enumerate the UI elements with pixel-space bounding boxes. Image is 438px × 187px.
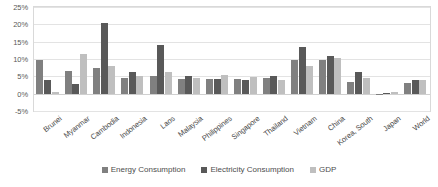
bar-0[interactable]: [376, 94, 383, 95]
bar-2[interactable]: [165, 72, 172, 94]
bar-group: [289, 7, 317, 111]
bar-group: [34, 7, 62, 111]
bar-2[interactable]: [136, 76, 143, 94]
bar-1[interactable]: [72, 84, 79, 94]
bar-0[interactable]: [319, 60, 326, 94]
chart-legend: Energy ConsumptionElectricity Consumptio…: [0, 165, 438, 174]
bar-2[interactable]: [391, 92, 398, 93]
bar-1[interactable]: [327, 56, 334, 94]
bar-2[interactable]: [108, 66, 115, 94]
x-axis: BruneiMyanmarCambodiaIndonesiaLaosMalays…: [34, 112, 430, 162]
bar-1[interactable]: [157, 45, 164, 93]
bar-0[interactable]: [347, 82, 354, 93]
bars-layer: [34, 7, 430, 111]
bar-0[interactable]: [206, 79, 213, 94]
bar-2[interactable]: [80, 54, 87, 94]
bar-group: [402, 7, 430, 111]
bar-0[interactable]: [234, 79, 241, 94]
legend-swatch-icon: [201, 167, 207, 173]
bar-group: [345, 7, 373, 111]
bar-1[interactable]: [355, 72, 362, 94]
bar-group: [204, 7, 232, 111]
bar-0[interactable]: [93, 68, 100, 94]
legend-swatch-icon: [102, 167, 108, 173]
bar-2[interactable]: [419, 80, 426, 94]
bar-1[interactable]: [129, 72, 136, 93]
bar-0[interactable]: [404, 83, 411, 94]
y-axis-tick-label: 10%: [13, 55, 28, 64]
bar-0[interactable]: [263, 78, 270, 94]
bar-1[interactable]: [383, 93, 390, 94]
bar-group: [119, 7, 147, 111]
bar-2[interactable]: [52, 92, 59, 94]
bar-0[interactable]: [36, 60, 43, 93]
bar-1[interactable]: [44, 80, 51, 94]
bar-2[interactable]: [278, 80, 285, 94]
bar-1[interactable]: [101, 23, 108, 94]
bar-group: [175, 7, 203, 111]
y-axis-tick-label: 25%: [13, 3, 28, 12]
bar-0[interactable]: [178, 79, 185, 94]
bar-2[interactable]: [193, 78, 200, 93]
bar-0[interactable]: [150, 76, 157, 93]
bar-2[interactable]: [334, 58, 341, 94]
y-axis-tick-label: 5%: [17, 72, 28, 81]
y-axis-tick-label: 15%: [13, 37, 28, 46]
bar-2[interactable]: [306, 66, 313, 93]
bar-0[interactable]: [121, 78, 128, 93]
bar-1[interactable]: [185, 76, 192, 94]
y-axis: 25%20%15%10%5%0%-5%: [0, 6, 31, 112]
bar-group: [147, 7, 175, 111]
legend-label: Electricity Consumption: [210, 165, 294, 174]
y-axis-tick-label: 0%: [17, 89, 28, 98]
legend-label: Energy Consumption: [111, 165, 186, 174]
bar-0[interactable]: [291, 60, 298, 94]
bar-group: [232, 7, 260, 111]
bar-2[interactable]: [363, 78, 370, 93]
bar-group: [373, 7, 401, 111]
legend-item[interactable]: Energy Consumption: [102, 165, 186, 174]
bar-1[interactable]: [214, 79, 221, 94]
legend-item[interactable]: Electricity Consumption: [201, 165, 294, 174]
bar-group: [62, 7, 90, 111]
bar-0[interactable]: [65, 71, 72, 94]
bar-2[interactable]: [221, 75, 228, 93]
bar-1[interactable]: [270, 76, 277, 94]
bar-group: [317, 7, 345, 111]
legend-item[interactable]: GDP: [310, 165, 336, 174]
y-axis-tick-label: -5%: [15, 107, 28, 116]
bar-1[interactable]: [299, 47, 306, 94]
bar-2[interactable]: [250, 77, 257, 94]
bar-group: [260, 7, 288, 111]
legend-label: GDP: [319, 165, 336, 174]
bar-chart: 25%20%15%10%5%0%-5% BruneiMyanmarCambodi…: [0, 0, 438, 187]
bar-group: [91, 7, 119, 111]
bar-1[interactable]: [412, 80, 419, 94]
y-axis-tick-label: 20%: [13, 20, 28, 29]
legend-swatch-icon: [310, 167, 316, 173]
bar-1[interactable]: [242, 80, 249, 94]
